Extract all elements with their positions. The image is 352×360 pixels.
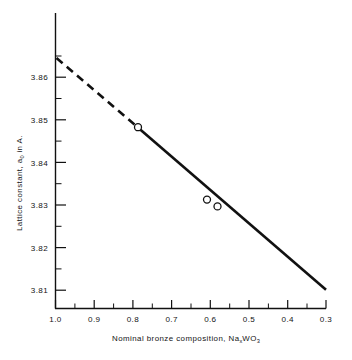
lattice-constant-plot: 3.86 3.85 3.84 3.83 3.82 3.81 1.0 0.9 0.… <box>0 0 352 360</box>
y-tick-label: 3.84 <box>31 159 48 168</box>
x-tick-label: 0.3 <box>320 315 332 324</box>
y-axis-tick-labels: 3.86 3.85 3.84 3.83 3.82 3.81 <box>31 73 48 295</box>
x-axis-tick-labels: 1.0 0.9 0.8 0.7 0.6 0.5 0.4 0.3 <box>49 315 332 324</box>
y-axis-title-main: Lattice constant, a <box>15 158 24 231</box>
x-tick-label: 0.7 <box>165 315 177 324</box>
data-series-group <box>57 58 327 290</box>
x-tick-label: 0.8 <box>127 315 139 324</box>
y-tick-label: 3.82 <box>31 244 48 253</box>
series-solid-fit <box>137 127 326 290</box>
y-tick-label: 3.86 <box>31 73 48 82</box>
svg-text:Lattice constant, a0 in A.: Lattice constant, a0 in A. <box>15 135 25 231</box>
x-axis-title-tail: WO <box>242 334 257 343</box>
x-tick-label: 0.4 <box>282 315 294 324</box>
x-axis-title-tail-sub: 3 <box>257 338 260 344</box>
data-point-marker <box>135 124 142 131</box>
y-axis-title-tail: in A. <box>15 135 24 155</box>
x-axis-title: Nominal bronze composition, NaxWO3 <box>112 334 260 344</box>
x-tick-label: 0.6 <box>204 315 216 324</box>
y-tick-label: 3.81 <box>31 286 48 295</box>
series-dashed-extrapolation <box>57 58 139 128</box>
x-axis-title-main: Nominal bronze composition, Na <box>112 334 240 343</box>
svg-text:Nominal bronze composition, Na: Nominal bronze composition, NaxWO3 <box>112 334 260 344</box>
data-point-marker <box>214 203 221 210</box>
x-tick-label: 0.9 <box>88 315 100 324</box>
axis-frame <box>55 13 326 309</box>
y-tick-label: 3.85 <box>31 116 48 125</box>
x-tick-label: 0.5 <box>243 315 255 324</box>
y-axis-title: Lattice constant, a0 in A. <box>15 135 25 231</box>
x-tick-label: 1.0 <box>49 315 61 324</box>
y-tick-label: 3.83 <box>31 201 48 210</box>
figure-container: 3.86 3.85 3.84 3.83 3.82 3.81 1.0 0.9 0.… <box>0 0 352 360</box>
data-point-marker <box>204 196 211 203</box>
x-axis-minor-ticks <box>75 304 307 309</box>
